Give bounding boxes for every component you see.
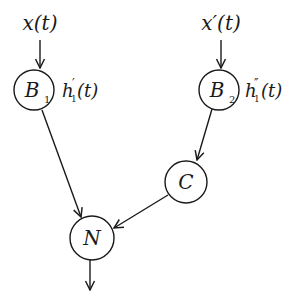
svg-text:(t): (t)	[261, 80, 282, 101]
node-b2: B 2	[199, 70, 239, 110]
edge-b2-to-c	[197, 109, 212, 160]
node-b1-subscript: 1	[44, 94, 50, 105]
side-label-h1-prime: h 1 ′ (t)	[62, 77, 98, 104]
svg-text:(t): (t)	[77, 80, 98, 101]
node-n-label: N	[82, 226, 102, 250]
svg-text:″: ″	[254, 77, 259, 91]
node-b1: B 1	[14, 70, 54, 110]
node-b2-subscript: 2	[229, 94, 235, 105]
side-label-h1-double-prime: h 1 ″ (t)	[245, 77, 282, 104]
svg-text:1: 1	[254, 94, 260, 104]
edge-c-to-n	[114, 195, 168, 228]
node-b2-label: B	[209, 78, 225, 102]
signal-flow-diagram: x(t) x′(t) B 1 h 1 ′ (t) B 2 h 1 ″ (t) C…	[0, 0, 293, 304]
svg-text:′: ′	[72, 77, 75, 91]
node-c: C	[165, 161, 207, 203]
node-c-label: C	[178, 170, 193, 194]
node-b1-label: B	[24, 78, 40, 102]
node-n: N	[70, 216, 114, 260]
edge-b1-to-n	[42, 110, 81, 217]
input-label-xprime: x′(t)	[201, 11, 240, 35]
input-label-x: x(t)	[23, 11, 58, 35]
svg-text:1: 1	[71, 94, 77, 104]
